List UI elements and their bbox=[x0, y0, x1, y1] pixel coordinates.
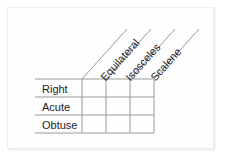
row-label-right: Right bbox=[42, 83, 68, 95]
grid-lines bbox=[0, 0, 228, 160]
row-label-acute: Acute bbox=[42, 101, 70, 113]
row-label-obtuse: Obtuse bbox=[42, 119, 77, 131]
